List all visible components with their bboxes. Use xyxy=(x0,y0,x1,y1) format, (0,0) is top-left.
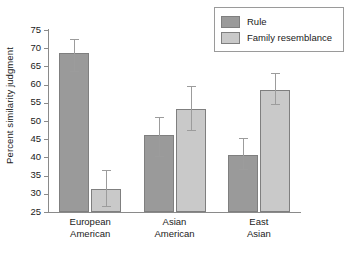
y-tick-label: 25 xyxy=(30,206,41,217)
y-tick-mark xyxy=(44,176,48,177)
legend-swatch-icon-family-resemblance xyxy=(221,32,240,44)
error-bar xyxy=(191,87,192,131)
y-axis-line xyxy=(48,29,49,213)
y-tick-mark xyxy=(44,194,48,195)
x-axis-category-label-line: American xyxy=(130,228,220,240)
x-axis-category-label-line: Asian xyxy=(214,228,304,240)
y-tick-label: 50 xyxy=(30,115,41,126)
legend-label-rule: Rule xyxy=(247,16,267,27)
y-tick-label: 70 xyxy=(30,42,41,53)
legend-item-rule: Rule xyxy=(221,14,337,29)
error-bar-cap xyxy=(155,156,164,157)
y-axis-title: Percent similarity judgment xyxy=(0,0,18,210)
x-axis-category-label-line: American xyxy=(45,228,135,240)
error-bar-cap xyxy=(70,39,79,40)
y-tick-mark xyxy=(44,103,48,104)
y-tick-label: 75 xyxy=(30,24,41,35)
legend-label-family-resemblance: Family resemblance xyxy=(247,32,332,43)
plot-area: 2530354045505560657075 xyxy=(48,30,301,212)
x-axis-category-label-line: European xyxy=(45,216,135,228)
y-tick-label: 30 xyxy=(30,187,41,198)
error-bar-cap xyxy=(102,206,111,207)
x-axis-category-label-line: East xyxy=(214,216,304,228)
error-bar xyxy=(159,118,160,157)
x-axis-category-label: EuropeanAmerican xyxy=(45,216,135,240)
bar-rule xyxy=(59,53,89,212)
error-bar-cap xyxy=(239,169,248,170)
error-bar xyxy=(243,139,244,170)
y-tick-mark xyxy=(44,212,48,213)
x-axis-category-label: AsianAmerican xyxy=(130,216,220,240)
y-axis-title-text: Percent similarity judgment xyxy=(4,47,15,164)
bar-chart-figure: Percent similarity judgment 253035404550… xyxy=(0,0,351,259)
y-tick-label: 65 xyxy=(30,60,41,71)
x-axis-category-label-line: Asian xyxy=(130,216,220,228)
y-tick-mark xyxy=(44,48,48,49)
x-axis-category-label: EastAsian xyxy=(214,216,304,240)
x-axis-line xyxy=(48,212,301,213)
y-tick-label: 55 xyxy=(30,96,41,107)
y-tick-mark xyxy=(44,30,48,31)
chart-legend: Rule Family resemblance xyxy=(214,7,344,52)
error-bar-cap xyxy=(239,138,248,139)
y-tick-mark xyxy=(44,139,48,140)
error-bar-cap xyxy=(155,117,164,118)
y-tick-mark xyxy=(44,85,48,86)
error-bar-cap xyxy=(102,170,111,171)
error-bar-cap xyxy=(187,130,196,131)
legend-item-family-resemblance: Family resemblance xyxy=(221,30,337,45)
error-bar-cap xyxy=(187,86,196,87)
bar-family-resemblance xyxy=(260,90,290,212)
y-tick-mark xyxy=(44,66,48,67)
error-bar xyxy=(275,74,276,105)
error-bar xyxy=(106,171,107,207)
error-bar-cap xyxy=(70,71,79,72)
error-bar-cap xyxy=(271,73,280,74)
y-tick-mark xyxy=(44,157,48,158)
y-tick-label: 60 xyxy=(30,78,41,89)
legend-swatch-icon-rule xyxy=(221,16,240,28)
y-tick-label: 35 xyxy=(30,169,41,180)
y-tick-mark xyxy=(44,121,48,122)
error-bar xyxy=(74,40,75,72)
error-bar-cap xyxy=(271,104,280,105)
y-tick-label: 45 xyxy=(30,133,41,144)
y-tick-label: 40 xyxy=(30,151,41,162)
